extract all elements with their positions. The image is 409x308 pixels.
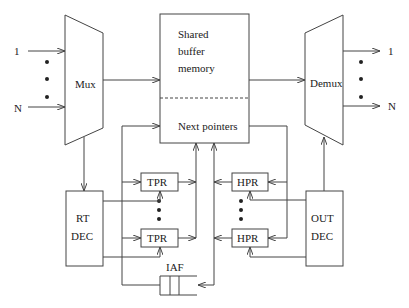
demux-label: Demux	[310, 77, 343, 89]
ellipsis-dot	[45, 60, 49, 64]
output-label-n: N	[388, 100, 396, 112]
tpr-bottom-label: TPR	[147, 232, 168, 244]
ellipsis-dot	[239, 217, 243, 221]
buffer-label-line1: Shared	[178, 28, 209, 40]
shared-buffer-diagram: 1 N Mux Shared buffer memory Next pointe…	[0, 0, 409, 308]
input-label-n: N	[14, 102, 22, 114]
output-label-1: 1	[388, 45, 394, 57]
out-dec-label-line2: DEC	[311, 230, 333, 242]
ellipsis-dot	[239, 199, 243, 203]
ellipsis-dot	[45, 77, 49, 81]
hpr-bottom-label: HPR	[237, 232, 259, 244]
ellipsis-dot	[157, 217, 161, 221]
ellipsis-dot	[239, 208, 243, 212]
hpr-top-label: HPR	[237, 176, 259, 188]
iaf-label: IAF	[166, 261, 184, 273]
buffer-label-line2: buffer	[178, 45, 205, 57]
input-label-1: 1	[14, 45, 20, 57]
iaf-to-next-pointers-line	[122, 126, 160, 285]
ellipsis-dot	[359, 95, 363, 99]
rt-dec-label-line1: RT	[76, 212, 90, 224]
buffer-label-line3: memory	[178, 62, 215, 74]
out-dec-block	[306, 191, 343, 266]
rtdec-to-tpr-top-line	[103, 191, 160, 201]
rt-dec-block	[66, 191, 103, 266]
rt-dec-label-line2: DEC	[71, 230, 93, 242]
next-pointers-label: Next pointers	[178, 120, 238, 132]
out-dec-label-line1: OUT	[311, 212, 334, 224]
outdec-to-hpr-bottom-line	[250, 247, 306, 257]
ellipsis-dot	[45, 95, 49, 99]
ellipsis-dot	[359, 60, 363, 64]
mux-label: Mux	[75, 78, 96, 90]
rtdec-to-tpr-bottom-line	[103, 247, 160, 257]
tpr-top-label: TPR	[147, 176, 168, 188]
ellipsis-dot	[359, 77, 363, 81]
ellipsis-dot	[157, 208, 161, 212]
outdec-to-hpr-top-line	[250, 191, 306, 200]
